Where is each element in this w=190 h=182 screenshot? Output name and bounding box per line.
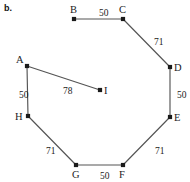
node-label-g: G xyxy=(72,170,190,181)
node-dot-d[interactable] xyxy=(168,65,172,69)
node-dot-i[interactable] xyxy=(98,88,102,92)
edge-weight-h-a: 50 xyxy=(19,91,29,101)
node-dot-f[interactable] xyxy=(121,163,125,167)
node-label-i: I xyxy=(104,86,108,97)
node-dot-g[interactable] xyxy=(74,163,78,167)
edge-weight-d-e: 50 xyxy=(177,91,187,101)
node-label-d: D xyxy=(174,63,182,74)
edge-weight-c-d: 71 xyxy=(154,38,164,48)
edge-g-h xyxy=(28,116,76,165)
nodes-layer xyxy=(25,17,172,167)
node-dot-c[interactable] xyxy=(121,17,125,21)
node-dot-b[interactable] xyxy=(72,17,76,21)
edge-weight-a-i: 78 xyxy=(63,87,73,97)
edge-e-f xyxy=(123,117,170,165)
edge-weight-e-f: 71 xyxy=(155,147,165,157)
edge-weight-g-h: 71 xyxy=(46,147,56,157)
node-label-c: C xyxy=(119,5,190,16)
node-label-a: A xyxy=(16,55,190,66)
node-label-h: H xyxy=(15,112,190,123)
graph-figure: b. 5071507150715078ABCDEFGHI xyxy=(0,0,190,182)
